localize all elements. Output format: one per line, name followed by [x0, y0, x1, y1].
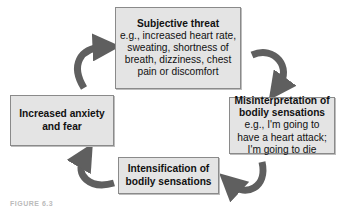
arrow-anxiety-to-threat — [78, 47, 103, 88]
node-detail: e.g., I'm going to have a heart attack; … — [233, 119, 331, 155]
node-increased-anxiety: Increased anxiety and fear — [10, 95, 114, 146]
node-subjective-threat: Subjective threat e.g., increased heart … — [115, 7, 241, 89]
node-detail: e.g., increased heart rate, sweating, sh… — [119, 30, 237, 78]
arrow-intensification-to-anxiety — [81, 158, 114, 185]
node-intensification: Intensification of bodily sensations — [118, 157, 219, 194]
node-misinterpretation: Misinterpretation of bodily sensations e… — [229, 97, 335, 154]
node-title: Misinterpretation of bodily sensations — [233, 95, 331, 119]
arrow-threat-to-misinterpretation — [252, 53, 284, 86]
node-title: Increased anxiety and fear — [14, 108, 110, 132]
figure-caption: FIGURE 6.3 — [10, 200, 53, 207]
node-title: Subjective threat — [119, 18, 237, 30]
node-title: Intensification of bodily sensations — [122, 163, 215, 187]
arrow-misinterpretation-to-intensification — [232, 162, 263, 190]
